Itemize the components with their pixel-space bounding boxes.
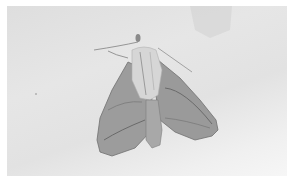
photo-frame: [0, 0, 292, 183]
antenna-left: [94, 42, 138, 50]
moth-illustration: [7, 6, 287, 176]
head: [136, 34, 141, 42]
right-wing: [155, 60, 218, 140]
moth-photo: [7, 6, 287, 176]
shadow: [190, 6, 232, 38]
